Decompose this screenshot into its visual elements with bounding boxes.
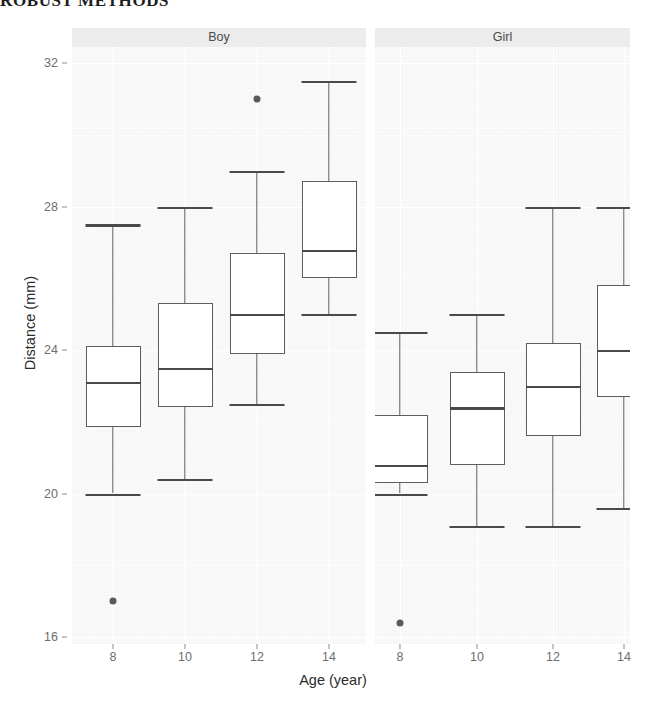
y-axis-tick-mark: [62, 350, 67, 351]
boxplot-cap-upper: [158, 207, 213, 209]
boxplot-cap-upper: [450, 314, 505, 316]
boxplot-whisker-lower: [112, 427, 113, 493]
x-axis-tick-mark: [329, 644, 330, 649]
x-axis-tick-mark: [113, 644, 114, 649]
y-axis-tick-label: 20: [18, 487, 58, 501]
grid-line-major-horizontal: [72, 63, 366, 64]
boxplot-median-line: [450, 407, 505, 409]
boxplot-outlier-point: [110, 598, 117, 605]
grid-line-major-horizontal: [375, 207, 630, 208]
y-axis-tick-mark: [62, 493, 67, 494]
boxplot-whisker-upper: [552, 207, 553, 343]
boxplot-cap-upper: [230, 171, 285, 173]
grid-line-minor-horizontal: [72, 135, 366, 136]
grid-line-major-horizontal: [72, 637, 366, 638]
x-axis-tick-mark: [624, 644, 625, 649]
panel-strip-girl: Girl: [375, 28, 630, 47]
plot-panel-girl: [375, 47, 630, 644]
x-axis-tick-label: 14: [309, 650, 349, 664]
boxplot-cap-upper: [597, 207, 631, 209]
x-axis-title: Age (year): [0, 672, 666, 688]
boxplot-box: [375, 415, 428, 483]
boxplot-cap-lower: [526, 526, 581, 528]
x-axis-tick-label: 10: [457, 650, 497, 664]
boxplot-whisker-lower: [552, 436, 553, 526]
boxplot-whisker-lower: [399, 483, 400, 494]
x-axis-tick-mark: [185, 644, 186, 649]
boxplot-figure: Boy Girl 3228242016 Distance (mm) Age (y…: [0, 0, 666, 713]
panel-strip-boy: Boy: [72, 28, 366, 47]
x-axis-tick-label: 14: [604, 650, 644, 664]
boxplot-median-line: [158, 368, 213, 370]
boxplot-box: [230, 253, 285, 353]
x-axis-tick-label: 8: [380, 650, 420, 664]
y-axis-title: Distance (mm): [22, 223, 38, 423]
x-axis-tick-label: 8: [93, 650, 133, 664]
boxplot-box: [597, 285, 631, 396]
y-axis-tick-mark: [62, 637, 67, 638]
grid-line-minor-horizontal: [72, 565, 366, 566]
grid-line-major-horizontal: [375, 637, 630, 638]
boxplot-cap-lower: [86, 494, 141, 496]
grid-line-minor-horizontal: [375, 278, 630, 279]
boxplot-cap-lower: [302, 314, 357, 316]
boxplot-whisker-upper: [328, 81, 329, 181]
boxplot-cap-upper: [526, 207, 581, 209]
boxplot-outlier-point: [397, 619, 404, 626]
y-axis-tick-label: 16: [18, 630, 58, 644]
x-axis-tick-mark: [477, 644, 478, 649]
x-axis-tick-label: 12: [237, 650, 277, 664]
boxplot-median-line: [230, 314, 285, 316]
boxplot-median-line: [86, 382, 141, 384]
boxplot-whisker-lower: [184, 407, 185, 479]
boxplot-cap-lower: [450, 526, 505, 528]
boxplot-cap-lower: [597, 508, 631, 510]
boxplot-whisker-lower: [256, 354, 257, 404]
boxplot-whisker-upper: [112, 224, 113, 346]
boxplot-whisker-upper: [256, 171, 257, 254]
boxplot-whisker-lower: [623, 397, 624, 508]
boxplot-box: [450, 372, 505, 465]
grid-line-minor-horizontal: [375, 565, 630, 566]
grid-line-major-horizontal: [375, 63, 630, 64]
grid-line-minor-horizontal: [375, 135, 630, 136]
x-axis-tick-mark: [553, 644, 554, 649]
boxplot-box: [526, 343, 581, 436]
boxplot-median-line: [526, 386, 581, 388]
boxplot-box: [86, 346, 141, 427]
boxplot-cap-lower: [375, 494, 428, 496]
boxplot-cap-upper: [302, 81, 357, 83]
boxplot-whisker-upper: [476, 314, 477, 371]
boxplot-median-line: [302, 250, 357, 252]
boxplot-cap-upper: [375, 332, 428, 334]
boxplot-median-line: [375, 465, 428, 467]
boxplot-cap-lower: [230, 404, 285, 406]
boxplot-cap-lower: [158, 479, 213, 481]
x-axis-tick-mark: [400, 644, 401, 649]
boxplot-median-line: [597, 350, 631, 352]
boxplot-cap-upper: [86, 224, 141, 226]
plot-panel-boy: [72, 47, 366, 644]
boxplot-box: [158, 303, 213, 407]
x-axis-tick-label: 10: [165, 650, 205, 664]
boxplot-whisker-upper: [623, 207, 624, 286]
y-axis-tick-label: 28: [18, 200, 58, 214]
boxplot-box: [302, 181, 357, 278]
boxplot-whisker-lower: [476, 465, 477, 526]
boxplot-whisker-lower: [328, 278, 329, 314]
y-axis-tick-mark: [62, 206, 67, 207]
grid-line-major-horizontal: [375, 350, 630, 351]
boxplot-outlier-point: [254, 95, 261, 102]
y-axis-tick-label: 32: [18, 56, 58, 70]
grid-line-minor-horizontal: [72, 278, 366, 279]
boxplot-whisker-upper: [184, 207, 185, 304]
y-axis-tick-mark: [62, 63, 67, 64]
boxplot-whisker-upper: [399, 332, 400, 415]
x-axis-tick-label: 12: [533, 650, 573, 664]
x-axis-tick-mark: [257, 644, 258, 649]
